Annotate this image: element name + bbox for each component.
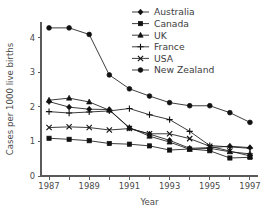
legend-label: Australia <box>154 6 195 17</box>
legend-label: Canada <box>154 18 189 29</box>
legend-entry-france[interactable]: France <box>132 41 185 52</box>
data-point-square <box>127 142 131 146</box>
x-tick-label: 1991 <box>119 181 140 191</box>
series-layer <box>46 26 253 161</box>
legend-entry-canada[interactable]: Canada <box>132 18 189 29</box>
data-point-plus <box>66 110 72 116</box>
x-tick-label: 1989 <box>79 181 100 191</box>
data-point-plus <box>247 145 253 151</box>
data-point-triangle <box>138 32 143 37</box>
data-point-circle <box>187 103 192 108</box>
data-point-plus <box>137 44 143 50</box>
series-new-zealand <box>47 26 253 125</box>
data-point-diamond <box>138 9 143 15</box>
data-point-x <box>187 136 192 141</box>
data-point-square <box>167 148 171 152</box>
legend-entry-australia[interactable]: Australia <box>132 6 195 17</box>
y-tick-label: 0 <box>30 171 35 181</box>
data-point-plus <box>166 116 172 122</box>
data-point-circle <box>47 26 52 31</box>
legend-label: New Zealand <box>154 64 214 75</box>
data-point-circle <box>167 100 172 105</box>
data-point-square <box>107 141 111 145</box>
data-point-plus <box>187 128 193 134</box>
data-point-square <box>47 136 51 140</box>
legend-entry-new-zealand[interactable]: New Zealand <box>132 64 214 75</box>
series-canada <box>47 136 252 160</box>
data-point-circle <box>67 26 72 31</box>
y-tick-label: 2 <box>30 102 35 112</box>
x-axis-title: Year <box>139 197 159 207</box>
data-point-triangle <box>67 95 72 100</box>
data-point-plus <box>46 109 52 115</box>
line-chart: 01234198719891991199319951997 AustraliaC… <box>0 0 278 219</box>
axes: 01234198719891991199319951997 <box>30 22 261 191</box>
chart-canvas: 01234198719891991199319951997 AustraliaC… <box>0 0 278 219</box>
data-point-circle <box>87 32 92 37</box>
y-tick-label: 4 <box>30 33 35 43</box>
y-tick-label: 1 <box>30 136 35 146</box>
x-tick-label: 1997 <box>239 181 260 191</box>
data-point-circle <box>248 120 253 125</box>
data-point-circle <box>127 86 132 91</box>
data-point-plus <box>146 112 152 118</box>
y-tick-label: 3 <box>30 67 35 77</box>
legend-entry-uk[interactable]: UK <box>132 30 168 41</box>
data-point-circle <box>207 103 212 108</box>
chart-legend: AustraliaCanadaUKFranceUSANew Zealand <box>132 6 214 75</box>
data-point-diamond <box>67 104 72 110</box>
data-point-circle <box>227 110 232 115</box>
x-tick-label: 1987 <box>38 181 59 191</box>
legend-label: France <box>154 41 185 52</box>
data-point-circle <box>138 68 143 73</box>
x-tick-label: 1993 <box>159 181 180 191</box>
legend-entry-usa[interactable]: USA <box>132 53 174 64</box>
series-line <box>49 102 250 149</box>
legend-label: USA <box>154 53 174 64</box>
x-tick-label: 1995 <box>199 181 220 191</box>
data-point-square <box>228 156 232 160</box>
legend-label: UK <box>154 30 168 41</box>
data-point-square <box>138 21 142 25</box>
data-point-plus <box>126 105 132 111</box>
series-australia <box>47 99 253 151</box>
data-point-square <box>67 137 71 141</box>
series-usa <box>46 124 252 158</box>
data-point-square <box>147 144 151 148</box>
data-point-circle <box>107 73 112 78</box>
y-axis-title: Cases per 1000 live births <box>5 42 15 155</box>
data-point-circle <box>147 94 152 99</box>
data-point-square <box>87 139 91 143</box>
